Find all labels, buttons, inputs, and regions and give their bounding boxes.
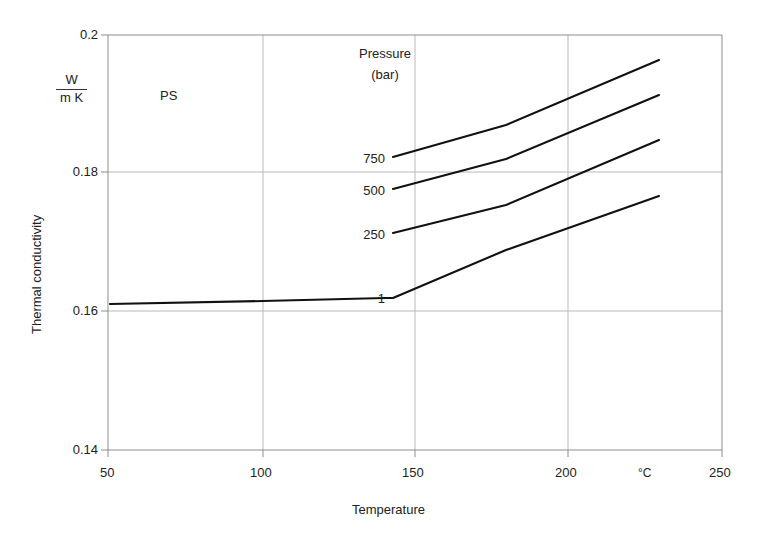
material-label-ps: PS (160, 89, 177, 102)
x-axis-title: Temperature (352, 503, 425, 516)
series-label-250: 250 (330, 228, 385, 241)
curve-250-bar (393, 140, 659, 233)
x-tick-label-150: 150 (402, 466, 424, 479)
data-curves (110, 60, 659, 304)
legend-title-line2: (bar) (330, 68, 440, 81)
x-tick-label-50: 50 (100, 466, 114, 479)
gridlines (108, 35, 722, 450)
series-label-750: 750 (330, 152, 385, 165)
curve-500-bar (393, 95, 659, 189)
y-tick-label-0.14: 0.14 (50, 443, 98, 456)
y-tick-label-0.16: 0.16 (50, 304, 98, 317)
y-tick-label-0.2: 0.2 (58, 28, 98, 41)
y-axis-unit-fraction: W m K (56, 73, 87, 106)
x-axis-unit-celsius: °C (638, 467, 651, 479)
series-label-500: 500 (330, 184, 385, 197)
x-tick-label-250: 250 (709, 466, 731, 479)
chart-figure: 0.2 0.18 0.16 0.14 50 100 150 200 250 °C… (0, 0, 759, 548)
curve-1-bar (110, 196, 659, 304)
unit-numerator: W (56, 73, 87, 90)
y-tick-label-0.18: 0.18 (50, 165, 98, 178)
tick-marks (101, 35, 722, 457)
x-tick-label-100: 100 (250, 466, 272, 479)
series-label-1: 1 (330, 292, 385, 305)
legend-title-line1: Pressure (330, 47, 440, 60)
x-tick-label-200: 200 (555, 466, 577, 479)
y-axis-title: Thermal conductivity (30, 215, 43, 334)
unit-denominator: m K (56, 90, 87, 106)
